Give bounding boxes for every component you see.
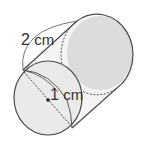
cylinder-diagram (0, 0, 144, 151)
radius-value: 1 (50, 86, 59, 103)
slant-length-label: 2 cm (21, 32, 54, 48)
radius-unit: cm (63, 86, 83, 103)
slant-length-value: 2 (21, 31, 30, 48)
slant-length-unit: cm (34, 31, 54, 48)
radius-label: 1 cm (50, 87, 83, 103)
